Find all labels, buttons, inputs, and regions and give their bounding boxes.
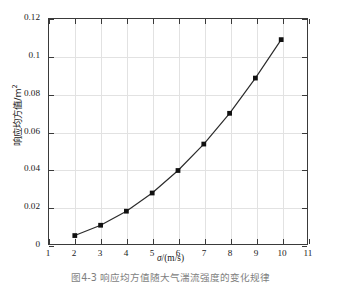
y-axis-title: 响应均方值/m2 xyxy=(10,50,24,180)
x-tick-mark xyxy=(309,19,310,24)
data-point-marker xyxy=(98,223,103,228)
data-point-marker xyxy=(253,76,258,81)
y-tick-label: 0 xyxy=(0,240,40,249)
y-tick-mark xyxy=(302,246,307,247)
x-axis-title: σ/(m/s) xyxy=(0,253,341,263)
x-tick-mark xyxy=(309,239,310,244)
data-point-marker xyxy=(227,111,232,116)
data-point-marker xyxy=(150,191,155,196)
y-axis-title-exponent: 2 xyxy=(11,84,19,88)
chart-axes xyxy=(48,18,308,245)
data-series-layer xyxy=(49,19,307,244)
data-point-marker xyxy=(201,142,206,147)
y-tick-label: 0.02 xyxy=(0,202,40,211)
data-point-marker xyxy=(124,209,129,214)
y-tick-mark xyxy=(49,246,54,247)
y-axis-title-text: 响应均方值/m xyxy=(12,88,23,145)
plot-wrapper: 00.020.040.060.080.10.12 1234567891011 σ… xyxy=(0,0,341,252)
data-point-marker xyxy=(279,37,284,42)
x-axis-units: /(m/s) xyxy=(162,253,184,263)
data-line xyxy=(75,40,281,236)
data-point-marker xyxy=(72,233,77,238)
figure-caption: 图4-3 响应均方值随大气湍流强度的变化规律 xyxy=(0,270,341,284)
y-tick-label: 0.12 xyxy=(0,13,40,22)
data-point-marker xyxy=(176,168,181,173)
